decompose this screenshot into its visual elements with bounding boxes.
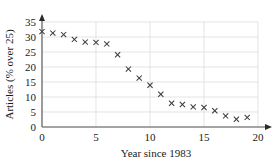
data-point-marker xyxy=(72,37,77,42)
x-tick-label: 15 xyxy=(199,131,211,143)
data-point-marker xyxy=(191,104,196,109)
data-point-marker xyxy=(115,52,120,57)
gridlines xyxy=(42,22,258,127)
x-tick-label: 10 xyxy=(145,131,157,143)
y-tick-label: 0 xyxy=(31,121,37,133)
scatter-plot-figure: 0510152025303505101520Year since 1983Art… xyxy=(0,0,276,163)
x-axis-arrowhead xyxy=(265,124,272,130)
y-tick-label: 20 xyxy=(25,61,37,73)
data-point-marker xyxy=(158,92,163,97)
data-point-marker xyxy=(245,115,250,120)
data-point-marker xyxy=(104,41,109,46)
y-axis-title: Articles (% over 25) xyxy=(3,29,16,119)
axes xyxy=(39,14,272,130)
y-tick-label: 5 xyxy=(31,106,37,118)
x-tick-label: 5 xyxy=(93,131,99,143)
x-axis-tick-labels: 05101520 xyxy=(39,131,264,143)
data-points xyxy=(39,29,249,122)
y-tick-label: 15 xyxy=(25,76,37,88)
data-point-marker xyxy=(83,40,88,45)
plot-canvas: 0510152025303505101520Year since 1983Art… xyxy=(0,0,276,163)
data-point-marker xyxy=(137,76,142,81)
y-axis-arrowhead xyxy=(39,14,45,21)
x-axis-title: Year since 1983 xyxy=(121,147,192,159)
data-point-marker xyxy=(169,101,174,106)
y-tick-label: 35 xyxy=(25,16,37,28)
y-tick-label: 25 xyxy=(25,46,37,58)
x-tick-label: 20 xyxy=(253,131,265,143)
data-point-marker xyxy=(223,113,228,118)
data-point-marker xyxy=(180,102,185,107)
x-tick-label: 0 xyxy=(39,131,45,143)
data-point-marker xyxy=(212,108,217,113)
data-point-marker xyxy=(50,31,55,36)
data-point-marker xyxy=(61,32,66,37)
y-tick-label: 30 xyxy=(25,31,37,43)
data-point-marker xyxy=(234,117,239,122)
y-tick-label: 10 xyxy=(25,91,37,103)
y-axis-tick-labels: 05101520253035 xyxy=(25,16,37,133)
